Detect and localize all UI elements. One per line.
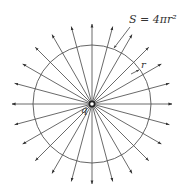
field-line-arrow: [15, 83, 92, 104]
field-line-arrow: [92, 104, 113, 181]
charge-label: q: [81, 104, 87, 115]
radius-label: r: [141, 59, 147, 70]
field-line-arrow: [92, 104, 169, 125]
field-line-arrow: [92, 27, 113, 104]
gaussian-sphere-diagram: S = 4πr² r q: [0, 0, 186, 194]
radius-pointer-arrow: [131, 70, 139, 74]
field-line-arrow: [35, 47, 92, 104]
field-line-arrow: [71, 27, 92, 104]
surface-area-label: S = 4πr²: [129, 13, 177, 26]
point-charge-icon: [89, 101, 94, 106]
field-line-arrow: [92, 104, 149, 161]
surface-pointer-arrow: [114, 27, 130, 48]
field-line-arrow: [92, 83, 169, 104]
field-line-arrow: [71, 104, 92, 181]
field-line-arrow: [92, 47, 149, 104]
